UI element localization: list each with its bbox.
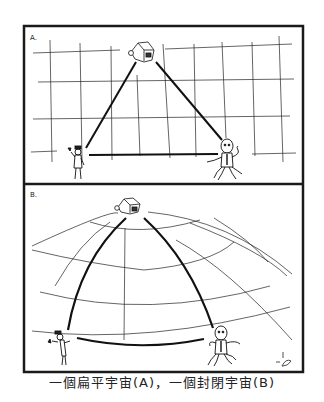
figure-caption: 一個扁平宇宙(A)，一個封閉宇宙(B)	[0, 372, 324, 394]
comic-illustration: A.	[0, 0, 324, 402]
curved-grid	[32, 212, 292, 340]
alien-figure-icon	[207, 139, 242, 180]
flat-grid	[31, 36, 296, 162]
human-figure-icon	[48, 331, 70, 365]
panel-a-label: A.	[30, 34, 37, 42]
comic-frame	[24, 26, 303, 372]
panel-b-label: B.	[30, 191, 37, 199]
spaceship-icon	[129, 42, 155, 62]
panel-a: A.	[30, 34, 296, 180]
artist-signature-icon	[276, 352, 291, 366]
alien-figure-icon	[208, 326, 240, 366]
spaceship-icon	[115, 198, 140, 214]
triangle-b	[68, 218, 213, 345]
panel-b: B.	[30, 191, 292, 366]
triangle-a	[86, 62, 222, 155]
